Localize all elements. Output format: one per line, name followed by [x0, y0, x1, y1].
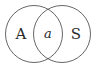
intersection-label: a: [44, 26, 52, 41]
venn-diagram: A a S: [0, 0, 94, 69]
set-circle-left: [6, 6, 63, 63]
venn-canvas: A a S: [0, 0, 94, 69]
set-circle-right: [34, 6, 91, 63]
set-label-left: A: [15, 25, 27, 43]
set-label-right: S: [71, 25, 81, 43]
